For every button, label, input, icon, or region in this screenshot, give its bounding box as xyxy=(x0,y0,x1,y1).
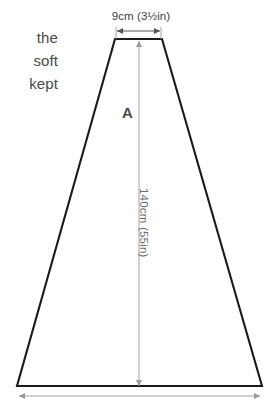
height-label: 140cm (55in) xyxy=(138,188,150,298)
instruction-text-block: the soft kept xyxy=(0,26,58,95)
instruction-line-3: kept xyxy=(0,72,58,95)
instruction-line-2: soft xyxy=(0,49,58,72)
top-width-label: 9cm (3½in) xyxy=(96,10,186,22)
pattern-piece-label: A xyxy=(122,104,133,121)
instruction-line-1: the xyxy=(0,26,58,49)
diagram-page: 9cm (3½in) A 140cm (55in) the soft kept xyxy=(0,0,277,400)
